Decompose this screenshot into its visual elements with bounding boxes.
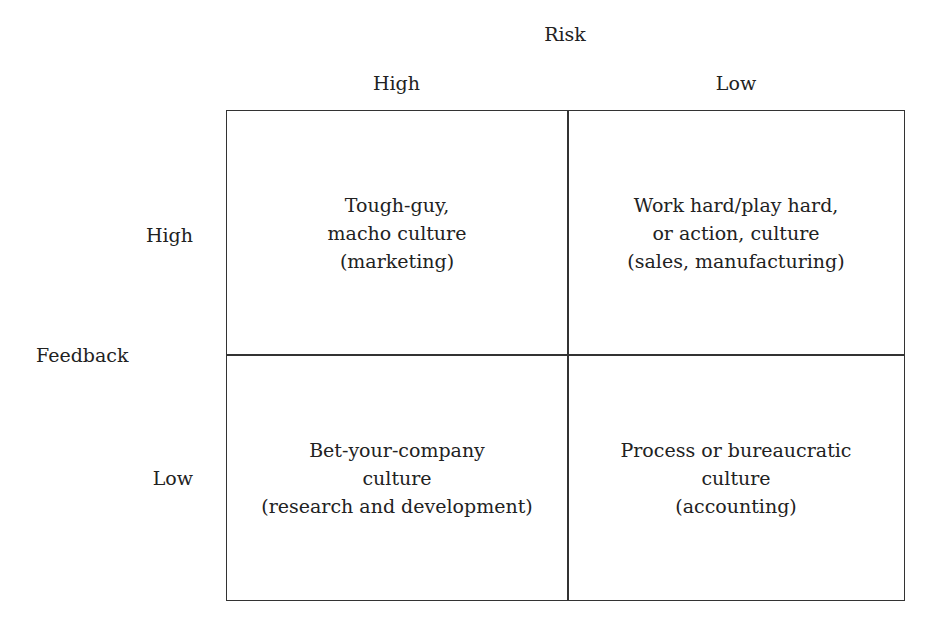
quadrant-process-culture: Process or bureaucratic culture (account… [568, 356, 904, 599]
quadrant-line: macho culture [328, 219, 467, 247]
quadrant-line: (marketing) [340, 247, 454, 275]
quadrant-line: Process or bureaucratic [621, 436, 852, 464]
quadrant-line: Work hard/play hard, [634, 191, 839, 219]
quadrant-line: culture [362, 464, 431, 492]
quadrant-tough-guy-culture: Tough-guy, macho culture (marketing) [227, 111, 567, 354]
culture-matrix-grid: Tough-guy, macho culture (marketing) Wor… [226, 110, 905, 601]
quadrant-line: Bet-your-company [309, 436, 485, 464]
feedback-low-label: Low [153, 467, 193, 489]
quadrant-line: culture [701, 464, 770, 492]
quadrant-line: (research and development) [261, 492, 532, 520]
risk-low-label: Low [567, 72, 905, 94]
risk-axis-title: Risk [0, 23, 935, 45]
quadrant-line: (sales, manufacturing) [627, 247, 844, 275]
quadrant-line: or action, culture [652, 219, 819, 247]
quadrant-line: (accounting) [675, 492, 796, 520]
risk-high-label: High [226, 72, 567, 94]
feedback-high-label: High [146, 224, 193, 246]
quadrant-work-hard-play-hard-culture: Work hard/play hard, or action, culture … [568, 111, 904, 354]
quadrant-bet-your-company-culture: Bet-your-company culture (research and d… [227, 356, 567, 599]
feedback-axis-title: Feedback [36, 344, 128, 366]
quadrant-line: Tough-guy, [345, 191, 449, 219]
